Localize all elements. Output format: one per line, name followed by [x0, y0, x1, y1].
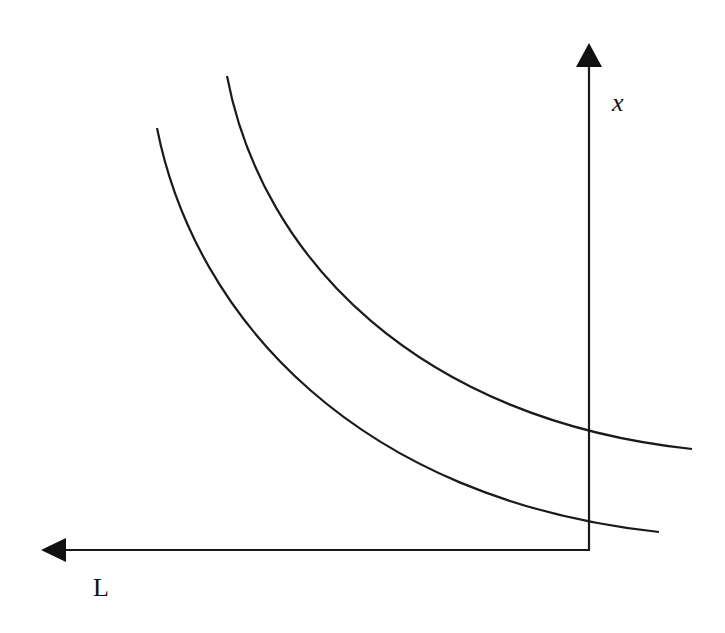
- isoquant-inner-curve: [157, 128, 659, 532]
- vertical-axis-arrowhead-icon: [576, 43, 602, 67]
- diagram-canvas: x L: [0, 0, 725, 633]
- horizontal-axis-arrowhead-icon: [41, 538, 66, 562]
- vertical-axis-label: x: [612, 88, 624, 118]
- horizontal-axis-label: L: [93, 573, 109, 603]
- isoquant-outer-curve: [227, 76, 692, 449]
